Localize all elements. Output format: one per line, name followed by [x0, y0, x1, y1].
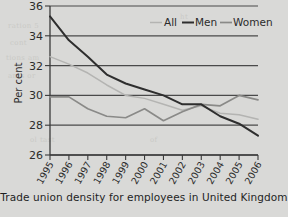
x-tick-label-1997: 1997 [72, 160, 94, 186]
legend-label-men: Men [195, 16, 217, 28]
series-line-men [50, 16, 258, 135]
x-tick-label-2003: 2003 [185, 160, 207, 186]
x-tick-label-2005: 2005 [223, 160, 245, 186]
chart-figure: 36 34 32 30 28 26 Per cent 1995199619971… [0, 0, 288, 190]
x-tick-label-2001: 2001 [148, 160, 170, 186]
legend-label-women: Women [233, 16, 273, 28]
y-tick-label-34: 34 [29, 30, 43, 43]
gridlines [50, 6, 258, 155]
page-background: ration 5conttions amants orol tastofht [0, 0, 288, 217]
line-chart: 36 34 32 30 28 26 Per cent 1995199619971… [0, 0, 288, 190]
y-axis-title: Per cent [13, 62, 24, 103]
x-tick-label-1995: 1995 [34, 160, 56, 186]
x-tick-label-2000: 2000 [129, 160, 151, 186]
x-tick-label-2006: 2006 [242, 160, 264, 186]
series-line-women [50, 95, 258, 120]
y-tick-label-32: 32 [29, 60, 43, 73]
x-ticks [50, 155, 258, 160]
legend-label-all: All [164, 16, 177, 28]
y-tick-label-36: 36 [29, 0, 43, 13]
x-tick-labels: 1995199619971998199920002001200220032004… [34, 160, 264, 186]
y-tick-label-28: 28 [29, 119, 43, 132]
chart-legend: All Men Women [150, 16, 273, 28]
x-tick-label-1999: 1999 [110, 160, 132, 186]
y-ticks [45, 6, 50, 155]
x-tick-label-1998: 1998 [91, 160, 113, 186]
y-tick-label-26: 26 [29, 149, 43, 162]
figure-caption: Trade union density for employees in Uni… [0, 191, 288, 203]
x-tick-label-2004: 2004 [204, 160, 226, 186]
x-tick-label-2002: 2002 [166, 160, 188, 186]
x-tick-label-1996: 1996 [53, 160, 75, 186]
y-tick-label-30: 30 [29, 89, 43, 102]
